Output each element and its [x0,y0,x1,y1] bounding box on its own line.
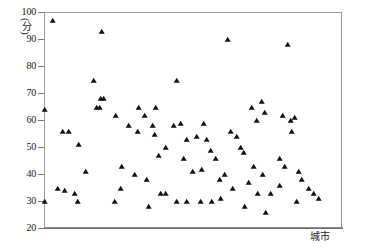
data-point [306,185,312,190]
data-point [209,199,215,204]
data-point [177,120,183,125]
x-axis-line [44,227,343,229]
y-axis-tick-label: 60 [2,115,36,125]
y-axis-tick-label-wrap: 60 [0,115,36,125]
data-point [42,199,48,204]
data-point [251,164,257,169]
data-point [132,172,138,177]
y-axis-tick-label-wrap: 100 [0,7,36,17]
data-point [146,204,152,209]
data-point [150,123,156,128]
data-point [199,166,205,171]
data-point [281,164,287,169]
data-point [208,147,214,152]
data-point [135,129,141,134]
y-axis-tick-label-wrap: 30 [0,196,36,206]
y-axis-tick-label: 40 [2,169,36,179]
data-point [277,183,283,188]
data-point [284,42,290,47]
data-point [156,153,162,158]
data-point [60,129,66,134]
data-point [237,145,243,150]
data-point [299,177,305,182]
data-point [218,196,224,201]
data-point [55,185,61,190]
data-point [204,137,210,142]
data-point [194,134,200,139]
data-point [97,104,103,109]
data-point [180,156,186,161]
y-axis-tick-label: 50 [2,142,36,152]
y-axis-tick-label: 80 [2,61,36,71]
data-point [136,104,142,109]
data-point [66,129,72,134]
data-point [276,156,282,161]
y-axis-tick-label-wrap: 40 [0,169,36,179]
scatter-chart: (分) 1009080706050403020 城市 [0,0,370,250]
data-point [279,112,285,117]
data-point [253,118,259,123]
data-point [225,37,231,42]
y-axis-tick-label-wrap: 70 [0,88,36,98]
data-point [99,29,105,34]
data-point [316,196,322,201]
data-point [259,172,265,177]
data-point [101,96,107,101]
data-point [113,112,119,117]
x-axis-title: 城市 [310,231,330,242]
data-point [62,188,68,193]
data-point [72,191,78,196]
y-axis-tick-label: 90 [2,34,36,44]
data-point [294,199,300,204]
data-point [268,191,274,196]
data-point [119,164,125,169]
data-point [112,199,118,204]
data-point [153,104,159,109]
data-point [230,185,236,190]
data-point [292,115,298,120]
data-point [142,112,148,117]
data-point [289,129,295,134]
data-point [234,134,240,139]
y-axis-tick-label: 100 [2,7,36,17]
data-point [83,169,89,174]
data-point [228,129,234,134]
data-point [246,180,252,185]
data-point [222,172,228,177]
y-axis-tick-label-wrap: 80 [0,61,36,71]
data-point [184,137,190,142]
y-axis-tick-label: 70 [2,88,36,98]
data-point [75,199,81,204]
data-point [248,104,254,109]
data-point [258,99,264,104]
data-point [126,123,132,128]
data-point [189,169,195,174]
y-axis-tick-label-wrap: 20 [0,223,36,233]
data-point [311,191,317,196]
data-point [240,150,246,155]
data-point [42,107,48,112]
data-point [262,210,268,215]
data-point [241,204,247,209]
data-point [170,123,176,128]
data-point [118,185,124,190]
y-axis-tick-label-wrap: 50 [0,142,36,152]
data-point [198,199,204,204]
data-point [261,110,267,115]
data-point [183,199,189,204]
plot-area [44,12,342,228]
data-point [162,145,168,150]
y-axis-tick-label-wrap: 90 [0,34,36,44]
data-point [254,191,260,196]
data-point [76,142,82,147]
data-point [217,177,223,182]
data-point [173,77,179,82]
data-point [91,77,97,82]
data-point [296,169,302,174]
data-point [162,191,168,196]
data-point [173,199,179,204]
data-point [201,120,207,125]
data-point [144,177,150,182]
data-point [152,131,158,136]
data-point [50,18,56,23]
